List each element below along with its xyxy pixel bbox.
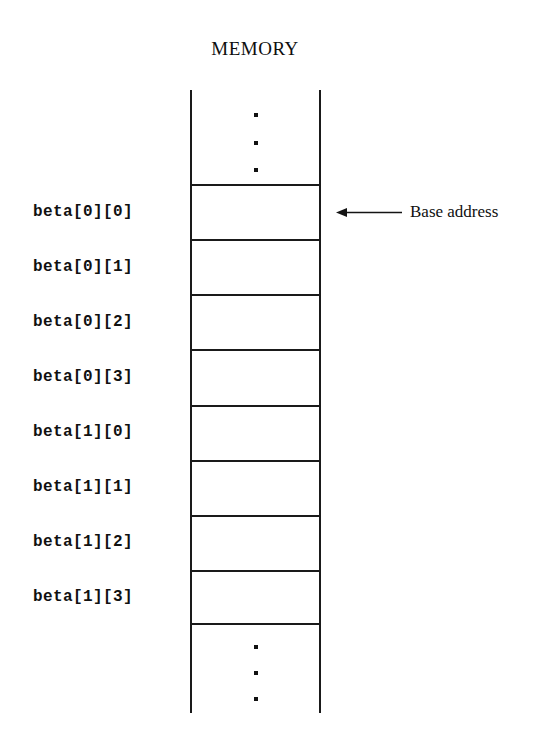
cell-label: beta[1][2] <box>33 533 133 551</box>
base-address-annotation: Base address <box>336 198 498 226</box>
cell-label-row: beta[0][0] <box>33 184 183 239</box>
memory-layout-diagram: MEMORY beta[0][0] beta[0][1] beta[0][2] <box>0 0 553 751</box>
cell-label-row: beta[0][1] <box>33 239 183 294</box>
cell-label-row: beta[1][2] <box>33 515 183 570</box>
memory-cell[interactable] <box>190 460 321 515</box>
cell-label: beta[1][3] <box>33 588 133 606</box>
cell-label-row: beta[1][0] <box>33 405 183 460</box>
cell-label: beta[0][0] <box>33 203 133 221</box>
memory-cell[interactable] <box>190 349 321 404</box>
memory-cell-list <box>190 184 321 625</box>
cell-label: beta[0][3] <box>33 368 133 386</box>
top-ellipsis <box>190 90 321 184</box>
cell-label: beta[0][1] <box>33 258 133 276</box>
ellipsis-dot <box>254 141 258 145</box>
cell-label-row: beta[1][1] <box>33 460 183 515</box>
ellipsis-dot <box>254 113 258 117</box>
memory-cell[interactable] <box>190 570 321 625</box>
cell-label: beta[1][1] <box>33 478 133 496</box>
ellipsis-dot <box>254 697 258 701</box>
page-title: MEMORY <box>0 38 510 60</box>
memory-cell[interactable] <box>190 239 321 294</box>
ellipsis-dot <box>254 671 258 675</box>
ellipsis-dot <box>254 168 258 172</box>
ellipsis-dot <box>254 645 258 649</box>
memory-cell-labels: beta[0][0] beta[0][1] beta[0][2] beta[0]… <box>33 184 183 625</box>
memory-cell[interactable] <box>190 294 321 349</box>
cell-label-row: beta[0][2] <box>33 294 183 349</box>
cell-label-row: beta[0][3] <box>33 349 183 404</box>
cell-label: beta[0][2] <box>33 313 133 331</box>
cell-label: beta[1][0] <box>33 423 133 441</box>
cell-label-row: beta[1][3] <box>33 570 183 625</box>
base-address-label: Base address <box>410 202 498 222</box>
memory-cell[interactable] <box>190 405 321 460</box>
arrow-left-icon <box>336 206 402 219</box>
memory-cell[interactable] <box>190 184 321 239</box>
bottom-ellipsis <box>190 625 321 713</box>
memory-cell[interactable] <box>190 515 321 570</box>
